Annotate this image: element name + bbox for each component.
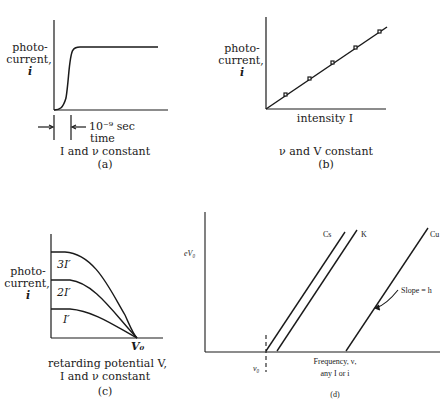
- panel-b-ylabel-line3: i: [218, 67, 266, 79]
- line-label-k: K: [361, 229, 367, 241]
- panel-b-xlabel: intensity I: [290, 113, 360, 125]
- panel-a-condition: I and ν constant: [40, 146, 170, 158]
- curve-label-3i: 3I′: [57, 259, 71, 271]
- panel-a-xlabel: time: [90, 133, 115, 145]
- line-label-cu: Cu: [430, 229, 439, 241]
- panel-b-caption: (b): [270, 159, 382, 171]
- panel-d-nu0-marker: ν₀: [253, 363, 259, 375]
- panel-c-caption: (c): [40, 386, 170, 398]
- panel-c-ylabel-line3: i: [4, 290, 52, 302]
- panel-a-caption: (a): [40, 159, 170, 171]
- panel-c-v0-marker: V₀: [131, 341, 144, 353]
- curve-label-1i: I′: [63, 314, 70, 326]
- panel-b-condition: ν and V constant: [270, 146, 382, 158]
- panel-d-ylabel: eV₀: [184, 248, 195, 260]
- panel-c-condition: I and ν constant: [40, 371, 170, 383]
- line-label-cs: Cs: [323, 229, 331, 241]
- curve-label-2i: 2I′: [57, 287, 71, 299]
- panel-b-plot: [266, 17, 387, 109]
- panel-a-ylabel-line3: i: [6, 66, 54, 78]
- panel-d-xlabel-line1: Frequency, ν,: [300, 356, 370, 368]
- panel-d-caption: (d): [300, 389, 370, 401]
- panel-c-xlabel: retarding potential V,: [40, 358, 175, 370]
- slope-annotation: Slope = h: [401, 285, 432, 297]
- panel-d-xlabel-line2: any I or i: [300, 368, 370, 380]
